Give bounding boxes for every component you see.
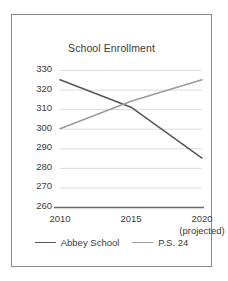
gridlines (60, 71, 202, 208)
series-line-0 (60, 80, 202, 158)
legend-line-icon (35, 242, 56, 243)
x-tick-label: 2010 (49, 213, 70, 224)
y-tick-label: 320 (26, 84, 52, 94)
x-tick-label: 2015 (120, 213, 141, 224)
y-tick-label: 260 (26, 201, 52, 211)
y-tick-label: 290 (26, 142, 52, 152)
legend-label: P.S. 24 (158, 237, 188, 248)
y-tick-label: 270 (26, 181, 52, 191)
series-line-1 (60, 80, 202, 129)
legend-line-icon (132, 242, 153, 243)
legend-label: Abbey School (61, 237, 120, 248)
y-tick-label: 300 (26, 123, 52, 133)
y-tick-label: 280 (26, 162, 52, 172)
legend-item[interactable]: Abbey School (35, 237, 120, 248)
legend-item[interactable]: P.S. 24 (132, 237, 188, 248)
y-tick-label: 330 (26, 64, 52, 74)
figure-frame: School Enrollment 3303203103002902802702… (11, 14, 212, 267)
chart-legend: Abbey SchoolP.S. 24 (12, 237, 211, 248)
y-tick-label: 310 (26, 103, 52, 113)
series-lines (60, 80, 202, 158)
x-tick-sublabel: (projected) (179, 225, 224, 236)
line-chart: School Enrollment 3303203103002902802702… (12, 15, 211, 266)
x-tick-label: 2020 (191, 213, 212, 224)
